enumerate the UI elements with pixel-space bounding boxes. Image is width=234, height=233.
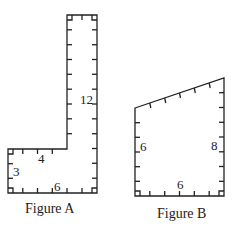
figure-b-caption: Figure B — [157, 206, 206, 221]
figures-diagram: 12 4 3 6 Figure A 6 8 6 — [0, 0, 234, 233]
figure-a-caption: Figure A — [25, 201, 75, 216]
figure-a-inner-left-ticks — [67, 30, 72, 134]
figure-b-label-left-6: 6 — [140, 139, 147, 154]
figure-a-bottom-ticks — [23, 188, 82, 193]
figure-b-label-8: 8 — [211, 138, 218, 153]
figure-a-label-3: 3 — [13, 164, 20, 179]
figure-b-right-ticks — [219, 93, 224, 182]
figure-a-label-12: 12 — [80, 92, 93, 107]
figure-a-label-4: 4 — [38, 151, 45, 166]
figure-b-label-bottom-6: 6 — [177, 177, 184, 192]
figure-a-label-6: 6 — [54, 179, 61, 194]
figure-b-slant-ticks — [150, 83, 210, 108]
